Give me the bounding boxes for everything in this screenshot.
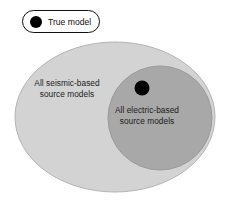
inner-set-ellipse xyxy=(108,66,212,170)
legend-label: True model xyxy=(48,17,91,27)
true-model-marker-icon xyxy=(30,16,42,28)
legend-box: True model xyxy=(22,10,100,33)
venn-diagram-figure: All seismic-based source models All elec… xyxy=(0,0,241,203)
true-model-point xyxy=(135,81,150,96)
